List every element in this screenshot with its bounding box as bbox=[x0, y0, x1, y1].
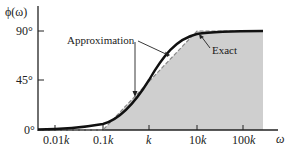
x-label-10k: 10k bbox=[189, 133, 207, 147]
x-label-100k: 100k bbox=[232, 133, 256, 147]
exact-annotation: Exact bbox=[212, 44, 237, 56]
approx-arrow-2 bbox=[138, 41, 168, 55]
y-label-0: 0° bbox=[24, 123, 35, 137]
y-axis-label: ϕ(ω) bbox=[5, 5, 27, 19]
x-label-k: k bbox=[146, 133, 152, 147]
x-label-0.01k: 0.01k bbox=[43, 133, 70, 147]
approximation-annotation: Approximation bbox=[67, 34, 135, 46]
x-axis-label: ω bbox=[276, 132, 284, 146]
y-label-90: 90° bbox=[16, 24, 33, 38]
y-label-45: 45° bbox=[16, 73, 33, 87]
phase-plot: ϕ(ω) 90° 45° 0° 0.01k 0.1k k 10k 100k ω … bbox=[0, 0, 291, 147]
x-label-0.1k: 0.1k bbox=[93, 133, 114, 147]
